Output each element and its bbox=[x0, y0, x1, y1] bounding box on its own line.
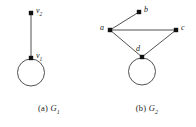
vertex-label-a: a bbox=[100, 24, 104, 32]
caption-g1-sub: 1 bbox=[57, 109, 60, 115]
caption-g2: (b) G2 bbox=[98, 103, 196, 115]
vertex-label-b: b bbox=[144, 6, 148, 14]
vertex-label-v2-sub: 2 bbox=[40, 11, 43, 17]
vertex-a bbox=[108, 28, 112, 32]
vertex-label-c: c bbox=[181, 24, 185, 32]
graph-g1-canvas bbox=[0, 0, 98, 100]
figure-panel-g2: a b c d (b) G2 bbox=[98, 0, 196, 127]
edge-a-b bbox=[110, 12, 139, 30]
caption-g1: (a) G1 bbox=[0, 103, 98, 115]
caption-g1-tag: (a) bbox=[38, 103, 48, 113]
loop-d bbox=[129, 58, 156, 85]
graph-g2-canvas bbox=[98, 0, 196, 100]
vertex-label-v1-sub: 1 bbox=[40, 56, 43, 62]
loop-v1 bbox=[18, 59, 45, 86]
vertex-label-v1: v1 bbox=[36, 52, 42, 62]
vertex-v2 bbox=[29, 11, 33, 15]
vertex-label-d: d bbox=[136, 45, 140, 53]
caption-g2-tag: (b) bbox=[136, 103, 147, 113]
vertex-b bbox=[137, 10, 141, 14]
edge-c-d bbox=[142, 30, 176, 57]
figure-root: v2 v1 (a) G1 a b c d (b) G2 bbox=[0, 0, 196, 127]
figure-panel-g1: v2 v1 (a) G1 bbox=[0, 0, 98, 127]
caption-g2-sub: 2 bbox=[155, 109, 158, 115]
vertex-label-v2: v2 bbox=[36, 7, 42, 17]
vertex-d bbox=[140, 55, 144, 59]
vertex-v1 bbox=[29, 56, 33, 60]
vertex-c bbox=[174, 28, 178, 32]
